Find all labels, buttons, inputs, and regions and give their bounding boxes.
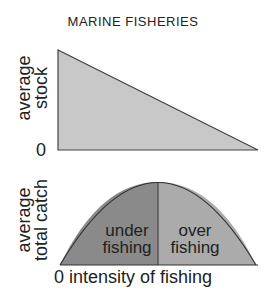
stock-axis-label-line2: stock [33, 48, 50, 128]
catch-axis-label-line2: total catch [33, 170, 50, 270]
stock-origin-label: 0 [36, 140, 46, 161]
over-fishing-line2: fishing [160, 239, 230, 256]
under-fishing-label: under fishing [92, 222, 162, 256]
x-axis-label: 0 intensity of fishing [54, 267, 212, 288]
stock-triangle [58, 50, 258, 150]
under-fishing-line2: fishing [92, 239, 162, 256]
over-fishing-label: over fishing [160, 222, 230, 256]
catch-axis-label: average total catch [16, 170, 50, 270]
under-fishing-line1: under [92, 222, 162, 239]
x-axis-text: intensity of fishing [69, 267, 212, 287]
stock-axis-label: average stock [16, 48, 50, 128]
catch-origin-label: 0 [54, 267, 64, 287]
over-fishing-line1: over [160, 222, 230, 239]
